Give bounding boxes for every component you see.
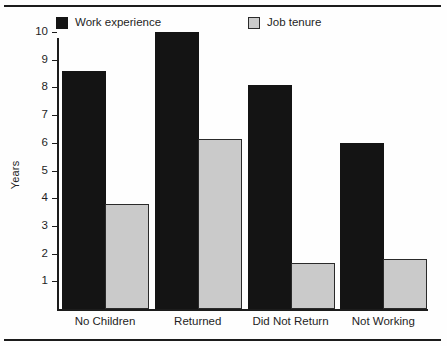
legend-swatch-work-experience [56, 17, 68, 29]
bar-no-children-work-experience [62, 71, 106, 309]
y-tick-7: 7 [52, 115, 57, 116]
y-tick-label-5: 5 [42, 165, 48, 177]
bar-did-not-return-work-experience [248, 85, 292, 309]
y-tick-1: 1 [52, 281, 57, 282]
y-tick-label-7: 7 [42, 109, 48, 121]
x-axis-label-returned: Returned [174, 316, 221, 328]
y-axis-title: Years [8, 38, 22, 311]
y-tick-4: 4 [52, 198, 57, 199]
x-axis-label-did-not-return: Did Not Return [252, 316, 328, 328]
top-rule [4, 5, 441, 7]
y-axis-title-text: Years [9, 160, 21, 189]
legend-swatch-job-tenure [248, 17, 260, 29]
legend-item-work-experience: Work experience [56, 15, 161, 31]
x-axis-line [57, 309, 428, 311]
y-tick-10: 10 [52, 32, 57, 33]
legend-item-job-tenure: Job tenure [248, 15, 321, 31]
chart-legend: Work experience Job tenure [0, 15, 447, 31]
plot-area: 12345678910 [57, 38, 428, 311]
y-tick-label-4: 4 [42, 192, 48, 204]
y-tick-label-3: 3 [42, 220, 48, 232]
y-tick-label-8: 8 [42, 82, 48, 94]
y-tick-6: 6 [52, 143, 57, 144]
y-tick-label-1: 1 [42, 276, 48, 288]
bar-no-children-job-tenure [105, 204, 149, 309]
bar-not-working-work-experience [340, 143, 384, 309]
bar-returned-work-experience [155, 32, 199, 309]
y-tick-label-2: 2 [42, 248, 48, 260]
y-tick-3: 3 [52, 226, 57, 227]
y-tick-label-10: 10 [35, 26, 48, 38]
y-tick-2: 2 [52, 254, 57, 255]
bar-not-working-job-tenure [383, 259, 427, 309]
y-tick-8: 8 [52, 87, 57, 88]
legend-label-work-experience: Work experience [75, 17, 161, 29]
figure-container: Work experience Job tenure Years 1234567… [0, 0, 447, 346]
x-axis-label-not-working: Not Working [352, 316, 415, 328]
bar-did-not-return-job-tenure [291, 263, 335, 309]
bottom-rule [4, 339, 441, 341]
cropped-title-remnant [0, 0, 447, 1]
bar-returned-job-tenure [198, 139, 242, 309]
x-axis-label-no-children: No Children [75, 316, 136, 328]
y-tick-label-9: 9 [42, 54, 48, 66]
y-tick-label-6: 6 [42, 137, 48, 149]
y-axis-line [57, 38, 59, 311]
y-tick-5: 5 [52, 171, 57, 172]
legend-label-job-tenure: Job tenure [267, 17, 321, 29]
y-tick-9: 9 [52, 60, 57, 61]
x-axis-category-labels: No ChildrenReturnedDid Not ReturnNot Wor… [57, 316, 428, 332]
